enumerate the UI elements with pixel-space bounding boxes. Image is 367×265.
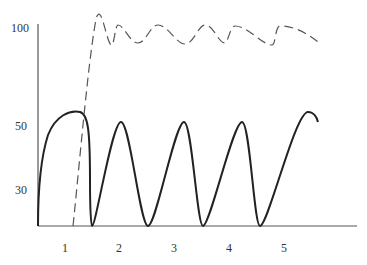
series-dashed-line [73,14,318,226]
line-chart: 100 50 30 1 2 3 4 5 [0,0,367,265]
y-tick-label-100: 100 [11,21,29,35]
x-tick-label-3: 3 [171,241,177,255]
series-solid-line [38,112,318,226]
x-tick-label-4: 4 [226,241,232,255]
x-tick-label-5: 5 [281,241,287,255]
y-tick-label-50: 50 [15,119,27,133]
y-tick-label-30: 30 [15,183,27,197]
x-tick-label-1: 1 [62,241,68,255]
x-tick-label-2: 2 [116,241,122,255]
